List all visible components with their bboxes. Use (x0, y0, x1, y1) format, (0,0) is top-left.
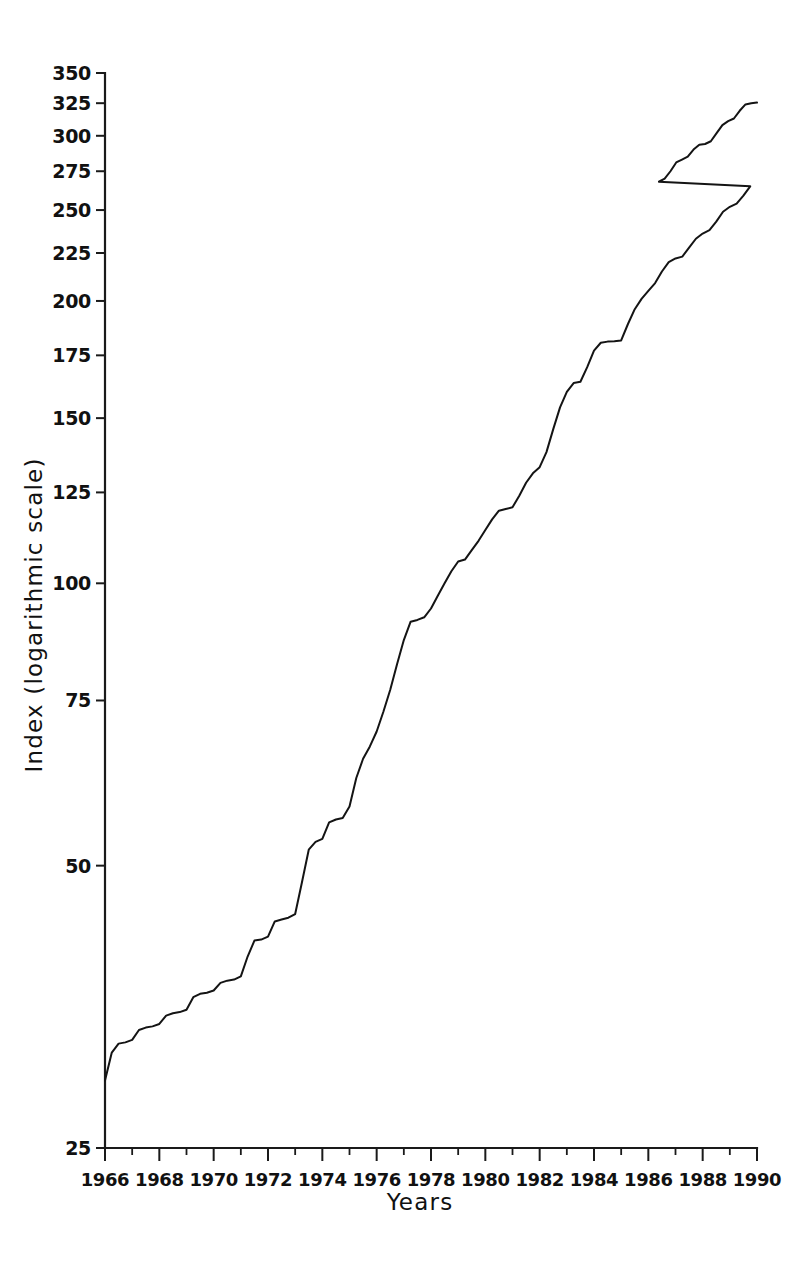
x-tick-label: 1970 (189, 1169, 238, 1190)
x-tick-label: 1966 (81, 1169, 130, 1190)
x-tick-label: 1968 (135, 1169, 184, 1190)
y-axis-ticks (96, 73, 105, 1148)
y-tick-label: 250 (52, 199, 91, 221)
y-tick-label: 300 (52, 125, 91, 147)
y-tick-label: 200 (52, 290, 91, 312)
x-axis-title: Years (386, 1189, 454, 1215)
x-tick-label: 1978 (407, 1169, 456, 1190)
y-tick-label: 150 (52, 407, 91, 429)
y-tick-label: 275 (52, 160, 91, 182)
x-tick-label: 1972 (244, 1169, 293, 1190)
x-tick-label: 1974 (298, 1169, 347, 1190)
y-tick-label: 25 (65, 1137, 91, 1159)
y-tick-label: 50 (65, 855, 91, 877)
x-tick-label: 1988 (678, 1169, 727, 1190)
x-tick-label: 1976 (352, 1169, 401, 1190)
y-tick-label: 325 (52, 92, 91, 114)
x-axis-tick-labels: 1966196819701972197419761978198019821984… (81, 1169, 782, 1190)
y-tick-label: 350 (52, 62, 91, 84)
y-tick-label: 100 (52, 572, 91, 594)
chart-figure: 255075100125150175200225250275300325350 … (0, 0, 809, 1276)
x-tick-label: 1984 (570, 1169, 619, 1190)
line-chart-svg: 255075100125150175200225250275300325350 … (0, 0, 809, 1276)
y-tick-label: 175 (52, 344, 91, 366)
x-axis-ticks (105, 1148, 757, 1161)
data-series-line (105, 103, 757, 1081)
x-tick-label: 1990 (733, 1169, 782, 1190)
y-axis-tick-labels: 255075100125150175200225250275300325350 (52, 62, 91, 1159)
y-tick-label: 125 (52, 481, 91, 503)
x-tick-label: 1982 (515, 1169, 564, 1190)
x-tick-label: 1980 (461, 1169, 510, 1190)
y-tick-label: 75 (65, 689, 91, 711)
y-axis-title: Index (logarithmic scale) (21, 457, 47, 772)
y-tick-label: 225 (52, 242, 91, 264)
x-tick-label: 1986 (624, 1169, 673, 1190)
